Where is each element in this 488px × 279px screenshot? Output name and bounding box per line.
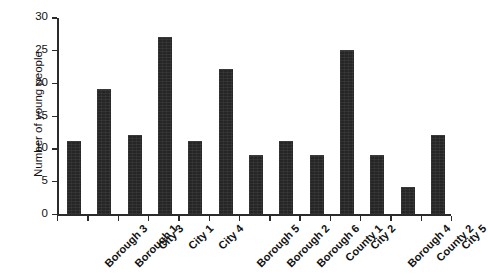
y-tick-25: 25 [52,50,57,51]
y-tick-0: 0 [52,214,57,215]
y-tick-15: 15 [52,116,57,117]
y-tick-label-30: 30 [35,9,48,24]
y-tick-label-20: 20 [35,75,48,90]
x-axis-label-city-4: City 4 [216,222,246,252]
y-tick-label-5: 5 [42,173,48,188]
x-axis-label-city-1: City 1 [186,222,216,252]
bar-city-2 [340,50,354,215]
y-tick-label-0: 0 [42,206,48,221]
y-tick-20: 20 [52,83,57,84]
y-tick-5: 5 [52,181,57,182]
bar-county-2 [401,187,415,214]
bar-borough-5 [219,69,233,214]
plot-area: 051015202530 [57,18,451,216]
y-tick-30: 30 [52,17,57,18]
bar-city-3 [128,135,142,215]
y-tick-label-15: 15 [35,108,48,123]
y-tick-10: 10 [52,148,57,149]
y-tick-label-10: 10 [35,140,48,155]
bar-city-5 [431,135,445,215]
bar-city-4 [188,141,202,214]
chart-title-clipped [0,0,468,3]
bar-city-1 [158,37,172,215]
bar-borough-3 [67,141,81,214]
bar-borough-4 [370,155,384,215]
x-tick-13 [451,216,452,221]
y-axis-line [57,18,59,216]
bar-borough-2 [249,155,263,215]
bar-county-1 [310,155,324,215]
y-tick-label-25: 25 [35,42,48,57]
x-axis-line [57,214,451,216]
x-axis-labels: Borough 3Borough 1City 3City 1City 4Boro… [57,218,451,278]
bar-borough-6 [279,141,293,214]
bar-borough-1 [97,89,111,214]
